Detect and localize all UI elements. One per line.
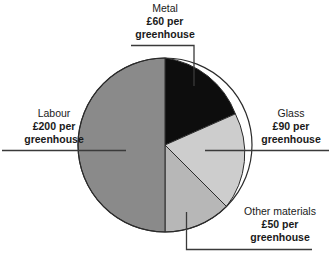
slice-label-glass-unit: greenhouse (252, 133, 330, 146)
slice-label-glass-value: £90 per (252, 120, 330, 133)
slice-label-other-materials-name: Other materials (230, 205, 330, 218)
slice-label-labour-name: Labour (2, 107, 106, 120)
slice-label-labour-unit: greenhouse (2, 133, 106, 146)
slice-label-labour-value: £200 per (2, 120, 106, 133)
slice-label-other-materials-value: £50 per (230, 218, 330, 231)
slice-label-labour: Labour £200 per greenhouse (2, 107, 106, 145)
slice-label-other-materials: Other materials £50 per greenhouse (230, 205, 330, 243)
slice-label-other-materials-unit: greenhouse (230, 231, 330, 244)
slice-label-metal-name: Metal (110, 2, 220, 15)
pie-chart-figure: Metal £60 per greenhouse Labour £200 per… (0, 0, 330, 253)
slice-label-metal: Metal £60 per greenhouse (110, 2, 220, 40)
slice-label-metal-unit: greenhouse (110, 28, 220, 41)
slice-label-metal-value: £60 per (110, 15, 220, 28)
slice-label-glass-name: Glass (252, 107, 330, 120)
slice-label-glass: Glass £90 per greenhouse (252, 107, 330, 145)
